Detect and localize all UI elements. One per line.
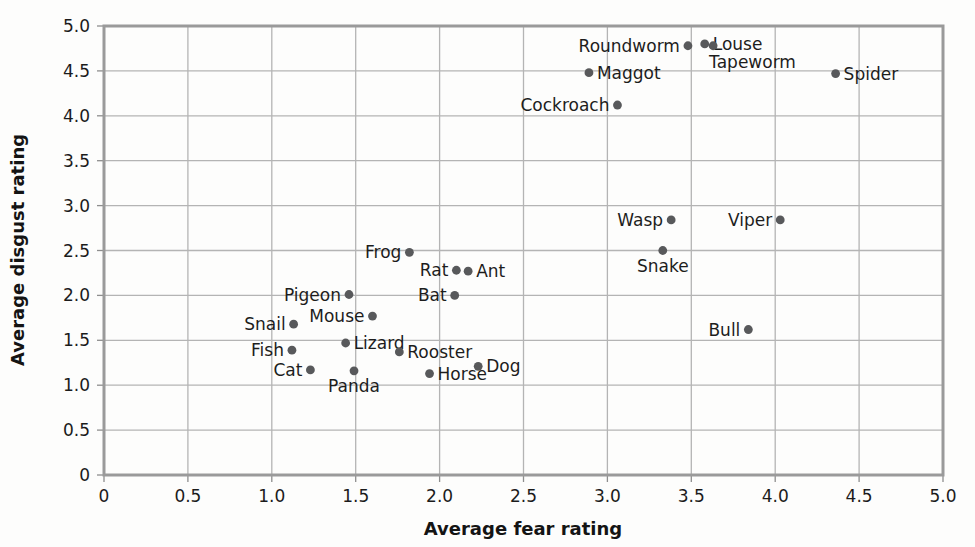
point-label: Bull	[708, 320, 740, 340]
point-label: Cockroach	[520, 95, 609, 115]
data-point-mouse: Mouse	[309, 306, 377, 326]
point-marker	[350, 366, 359, 375]
point-marker	[368, 312, 377, 321]
y-tick-label: 5.0	[63, 16, 90, 36]
data-point-bull: Bull	[708, 320, 752, 340]
point-marker	[395, 348, 404, 357]
data-point-wasp: Wasp	[617, 210, 675, 230]
data-point-pigeon: Pigeon	[284, 285, 353, 305]
x-tick-label: 0.5	[174, 486, 201, 506]
point-label: Snail	[244, 314, 285, 334]
point-marker	[684, 41, 693, 50]
data-point-viper: Viper	[728, 210, 785, 230]
gridlines	[104, 26, 943, 475]
data-point-lizard: Lizard	[341, 333, 404, 353]
point-marker	[405, 248, 414, 257]
point-marker	[464, 267, 473, 276]
point-marker	[345, 290, 354, 299]
data-point-rat: Rat	[420, 260, 461, 280]
x-tick-label: 0	[99, 486, 110, 506]
y-tick-label: 4.5	[63, 61, 90, 81]
point-marker	[452, 266, 461, 275]
point-marker	[776, 216, 785, 225]
x-tick-label: 4.5	[846, 486, 873, 506]
point-label: Frog	[365, 242, 401, 262]
data-point-horse: Horse	[425, 364, 487, 384]
point-label: Dog	[486, 356, 520, 376]
x-tick-label: 5.0	[929, 486, 956, 506]
x-tick-label: 2.5	[510, 486, 537, 506]
point-marker	[585, 68, 594, 77]
point-label: Pigeon	[284, 285, 341, 305]
data-point-rooster: Rooster	[395, 342, 472, 362]
point-label: Wasp	[617, 210, 663, 230]
data-point-frog: Frog	[365, 242, 414, 262]
point-label: Ant	[476, 261, 505, 281]
y-tick-label: 2.0	[63, 285, 90, 305]
point-label: Bat	[418, 285, 447, 305]
x-tick-label: 1.0	[258, 486, 285, 506]
data-point-fish: Fish	[251, 340, 296, 360]
y-axis-title: Average disgust rating	[7, 134, 28, 366]
x-axis-title: Average fear rating	[424, 518, 622, 539]
y-tick-label: 1.0	[63, 375, 90, 395]
point-marker	[288, 346, 297, 355]
point-label: Maggot	[597, 63, 661, 83]
point-label: Rooster	[407, 342, 472, 362]
point-label: Cat	[273, 360, 302, 380]
y-tick-label: 3.0	[63, 196, 90, 216]
y-tick-label: 1.5	[63, 330, 90, 350]
point-label: Horse	[438, 364, 488, 384]
point-label: Snake	[637, 256, 689, 276]
point-label: Tapeworm	[708, 52, 796, 72]
data-point-cockroach: Cockroach	[520, 95, 621, 115]
point-marker	[831, 69, 840, 78]
y-tick-label: 0.5	[63, 420, 90, 440]
x-axis-tick-labels: 00.51.01.52.02.53.03.54.04.55.0	[99, 486, 957, 506]
point-marker	[289, 320, 298, 329]
data-point-spider: Spider	[831, 64, 898, 84]
data-point-ant: Ant	[464, 261, 506, 281]
x-tick-label: 4.0	[762, 486, 789, 506]
point-label: Panda	[328, 376, 380, 396]
y-tick-label: 4.0	[63, 106, 90, 126]
data-point-panda: Panda	[328, 366, 380, 395]
data-points: RoundwormLouseTapewormMaggotSpiderCockro…	[244, 34, 898, 396]
data-point-maggot: Maggot	[585, 63, 661, 83]
data-point-roundworm: Roundworm	[579, 36, 693, 56]
point-marker	[700, 40, 709, 49]
point-label: Spider	[844, 64, 899, 84]
point-marker	[306, 366, 315, 375]
data-point-bat: Bat	[418, 285, 459, 305]
point-marker	[450, 291, 459, 300]
y-tick-label: 2.5	[63, 241, 90, 261]
chart-canvas: 00.51.01.52.02.53.03.54.04.55.0 00.51.01…	[0, 0, 975, 547]
point-label: Fish	[251, 340, 284, 360]
y-tick-label: 3.5	[63, 151, 90, 171]
point-label: Viper	[728, 210, 772, 230]
point-marker	[613, 101, 622, 110]
point-marker	[744, 325, 753, 334]
point-marker	[709, 41, 718, 50]
point-label: Mouse	[309, 306, 364, 326]
point-marker	[425, 369, 434, 378]
x-tick-label: 2.0	[426, 486, 453, 506]
x-tick-label: 1.5	[342, 486, 369, 506]
x-tick-label: 3.5	[678, 486, 705, 506]
point-marker	[667, 216, 676, 225]
point-label: Roundworm	[579, 36, 680, 56]
x-tick-label: 3.0	[594, 486, 621, 506]
point-marker	[658, 246, 667, 255]
y-tick-label: 0	[79, 465, 90, 485]
scatter-plot-figure: 00.51.01.52.02.53.03.54.04.55.0 00.51.01…	[0, 0, 975, 547]
data-point-cat: Cat	[273, 360, 314, 380]
y-axis-tick-labels: 00.51.01.52.02.53.03.54.04.55.0	[63, 16, 90, 485]
point-label: Rat	[420, 260, 449, 280]
data-point-snail: Snail	[244, 314, 298, 334]
point-marker	[341, 339, 350, 348]
